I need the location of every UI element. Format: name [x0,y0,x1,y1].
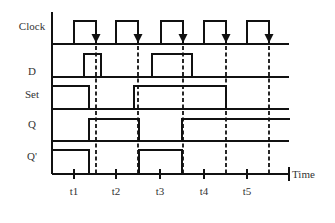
pulse-d [84,54,101,77]
pulse-clock [74,21,96,44]
signal-label-q-bar: Q' [27,150,37,162]
pulse-set [52,86,89,109]
arrow-down-icon [179,34,188,43]
pulse-clock [247,21,269,44]
tick-label-t1: t1 [70,185,79,197]
tick-label-t4: t4 [200,185,209,197]
arrow-down-icon [134,34,143,43]
arrow-down-icon [92,34,101,43]
arrow-down-icon [265,34,274,43]
pulse-clock [161,21,183,44]
signal-label-d: D [28,65,36,77]
pulse-clock [116,21,138,44]
pulse-q [182,119,289,141]
timing-diagram: ClockDSetQQ' Time t1t2t3t4t5 [0,0,335,223]
pulse-clock [204,21,226,44]
signal-label-q: Q [28,118,36,130]
signal-baselines [52,44,289,141]
pulse-d [152,54,192,77]
tick-label-t3: t3 [156,185,165,197]
pulse-q-bar [52,150,89,174]
tick-label-t5: t5 [243,185,252,197]
time-axis-label: Time [292,168,315,180]
arrow-down-icon [222,34,231,43]
signal-label-set: Set [25,88,39,100]
tick-label-t2: t2 [112,185,121,197]
pulse-set [134,86,226,109]
signal-labels: ClockDSetQQ' [19,20,46,162]
signal-label-clock: Clock [19,20,46,32]
